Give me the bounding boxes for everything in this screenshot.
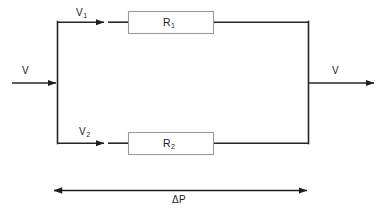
resistor-bottom-label: R2 [163, 138, 175, 149]
outlet-flow-label: V [332, 66, 339, 76]
resistor-bottom-symbol: R [163, 137, 171, 149]
circuit-diagram: V V V1 V2 R1 R2 ΔP [0, 0, 385, 221]
bottom-branch-flow-symbol: V [79, 126, 86, 137]
inlet-flow-label: V [22, 66, 29, 76]
pressure-drop-label: ΔP [172, 195, 186, 205]
resistor-top-subscript: 1 [171, 22, 175, 29]
top-branch-flow-label: V1 [76, 8, 87, 18]
resistor-top-label: R1 [163, 17, 175, 28]
circuit-schematic-canvas [0, 0, 385, 221]
top-branch-flow-subscript: 1 [83, 12, 87, 19]
bottom-branch-flow-subscript: 2 [86, 131, 90, 138]
bottom-branch-flow-label: V2 [79, 127, 90, 137]
top-branch-flow-symbol: V [76, 7, 83, 18]
resistor-top-symbol: R [163, 16, 171, 28]
resistor-bottom-subscript: 2 [171, 143, 175, 150]
